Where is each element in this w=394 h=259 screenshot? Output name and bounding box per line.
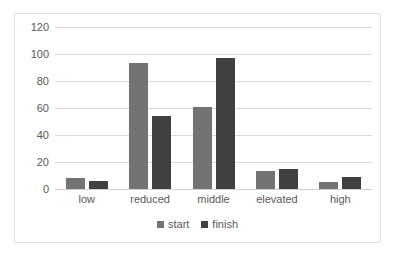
- x-tick-label-reduced: reduced: [118, 194, 181, 205]
- y-tick-label: 20: [37, 157, 49, 168]
- legend-label: start: [168, 219, 189, 230]
- bar-start-elevated: [256, 171, 275, 189]
- bar-finish-low: [89, 181, 108, 189]
- bar-chart-figure: 020406080100120 lowreducedmiddleelevated…: [14, 13, 381, 243]
- bar-finish-elevated: [279, 169, 298, 189]
- bar-finish-reduced: [152, 116, 171, 189]
- plot-area: 020406080100120: [55, 27, 372, 189]
- y-tick-label: 0: [43, 184, 49, 195]
- bars-layer: [55, 27, 372, 189]
- x-tick-label-high: high: [309, 194, 372, 205]
- bar-start-high: [319, 182, 338, 189]
- legend-item-start[interactable]: start: [157, 219, 189, 230]
- bar-start-low: [66, 178, 85, 189]
- bar-start-middle: [193, 107, 212, 189]
- bar-finish-middle: [216, 58, 235, 189]
- y-tick-label: 40: [37, 130, 49, 141]
- bar-group: [309, 27, 372, 189]
- legend-swatch-icon: [157, 221, 164, 228]
- y-tick-label: 100: [31, 49, 49, 60]
- y-tick-label: 120: [31, 22, 49, 33]
- bar-finish-high: [342, 177, 361, 189]
- y-tick-label: 80: [37, 76, 49, 87]
- x-tick-label-middle: middle: [182, 194, 245, 205]
- chart-legend: startfinish: [15, 219, 380, 230]
- x-axis-tick-labels: lowreducedmiddleelevatedhigh: [55, 194, 372, 205]
- x-tick-label-low: low: [55, 194, 118, 205]
- bar-start-reduced: [129, 63, 148, 189]
- legend-swatch-icon: [201, 221, 208, 228]
- bar-group: [245, 27, 308, 189]
- y-tick-label: 60: [37, 103, 49, 114]
- bar-group: [182, 27, 245, 189]
- x-tick-label-elevated: elevated: [245, 194, 308, 205]
- legend-item-finish[interactable]: finish: [201, 219, 238, 230]
- legend-label: finish: [212, 219, 238, 230]
- bar-group: [55, 27, 118, 189]
- gridline-0: [55, 189, 372, 190]
- bar-group: [118, 27, 181, 189]
